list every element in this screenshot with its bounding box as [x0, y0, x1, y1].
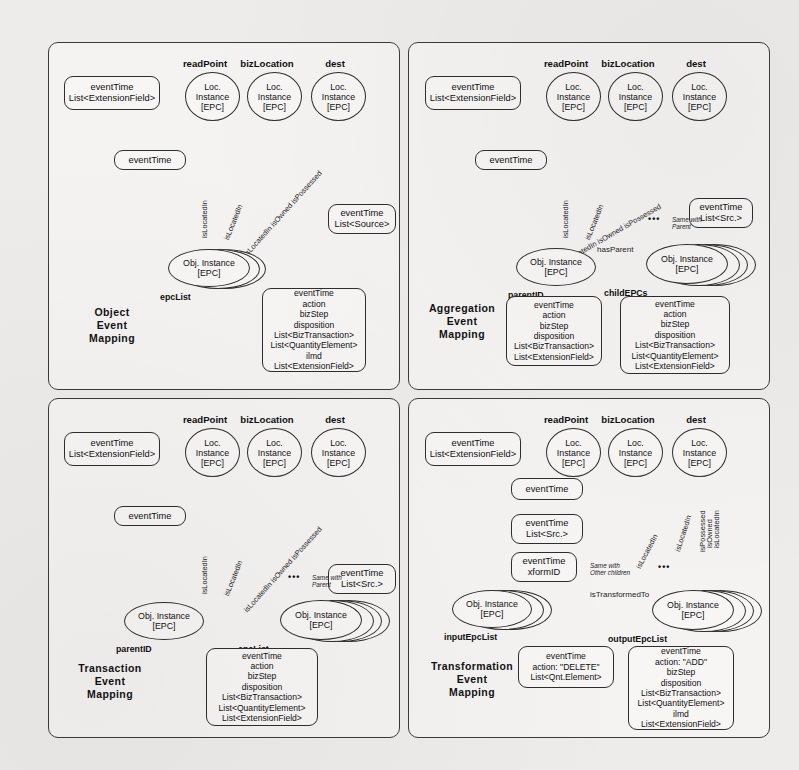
header-dest: dest: [305, 58, 365, 69]
obj-instance-epc-list: Obj. Instance [EPC]: [168, 249, 250, 287]
loc-instance-dest-xform: Loc. Instance [EPC]: [672, 428, 727, 477]
event-time-extension-box: eventTime List<ExtensionField>: [64, 76, 160, 110]
loc-instance-read-point-txn: Loc. Instance [EPC]: [185, 428, 240, 477]
event-time-extension-box-txn: eventTime List<ExtensionField>: [64, 432, 160, 466]
header-biz-location-txn: bizLocation: [231, 414, 303, 425]
obj-instance-input: Obj. Instance [EPC]: [452, 590, 532, 628]
panel-title-aggregation: Aggregation Event Mapping: [418, 302, 506, 341]
panel-title-object: Object Event Mapping: [62, 306, 162, 345]
loc-instance-read-point-agg: Loc. Instance [EPC]: [546, 72, 601, 121]
header-dest-agg: dest: [666, 58, 726, 69]
ellipsis-indicator-xform: •••: [658, 562, 670, 572]
loc-instance-read-point: Loc. Instance [EPC]: [185, 72, 240, 121]
event-time-source-box: eventTime List<Source>: [328, 204, 396, 234]
header-dest-xform: dest: [666, 414, 726, 425]
obj-instance-children: Obj. Instance [EPC]: [646, 244, 728, 284]
edge-label-is-possessed-xform: isPossessed: [698, 511, 707, 553]
edge-label-is-transformed-to: isTransformedTo: [590, 590, 649, 599]
loc-instance-biz-location-agg: Loc. Instance [EPC]: [608, 72, 663, 121]
transaction-event-attributes: eventTime action bizStep disposition Lis…: [206, 648, 318, 726]
edge-label-is-located-in-read-point-agg: isLocatedIn: [561, 200, 570, 238]
obj-instance-parent-txn: Obj. Instance [EPC]: [124, 602, 204, 640]
obj-instance-output: Obj. Instance [EPC]: [652, 590, 734, 630]
note-same-with-parent-agg: Same with Parent: [672, 216, 702, 231]
role-label-output-epc-list: outputEpcList: [608, 634, 667, 644]
event-time-box-agg: eventTime: [475, 150, 547, 170]
edge-label-has-parent: hasParent: [597, 245, 633, 254]
role-label-epc-list: epcList: [160, 292, 191, 302]
event-time-extension-box-xform: eventTime List<ExtensionField>: [425, 432, 521, 466]
header-dest-txn: dest: [305, 414, 365, 425]
event-time-xform-id-box: eventTime xformID: [511, 552, 577, 582]
header-biz-location-xform: bizLocation: [592, 414, 664, 425]
loc-instance-dest: Loc. Instance [EPC]: [311, 72, 366, 121]
transformation-output-attributes: eventTime action: "ADD" bizStep disposit…: [628, 646, 734, 730]
edge-label-is-located-in-read-point: isLocatedIn: [200, 200, 209, 238]
loc-instance-dest-agg: Loc. Instance [EPC]: [672, 72, 727, 121]
header-read-point-txn: readPoint: [170, 414, 240, 425]
loc-instance-dest-txn: Loc. Instance [EPC]: [311, 428, 366, 477]
obj-instance-epc-list-txn: Obj. Instance [EPC]: [280, 600, 362, 640]
role-label-input-epc-list: inputEpcList: [444, 632, 497, 642]
event-time-box-xform: eventTime: [511, 478, 583, 500]
aggregation-parent-attributes: eventTime action bizStep disposition Lis…: [506, 296, 602, 366]
loc-instance-biz-location-txn: Loc. Instance [EPC]: [247, 428, 302, 477]
panel-title-transaction: Transaction Event Mapping: [58, 662, 162, 701]
panel-title-transformation: Transformation Event Mapping: [416, 660, 528, 699]
ellipsis-indicator-txn: •••: [288, 572, 300, 582]
obj-instance-parent: Obj. Instance [EPC]: [516, 248, 596, 286]
event-time-extension-box-agg: eventTime List<ExtensionField>: [425, 76, 521, 110]
aggregation-child-attributes: eventTime action bizStep disposition Lis…: [620, 296, 730, 374]
header-biz-location-agg: bizLocation: [592, 58, 664, 69]
ellipsis-indicator-agg: •••: [648, 214, 660, 224]
loc-instance-biz-location-xform: Loc. Instance [EPC]: [608, 428, 663, 477]
header-read-point: readPoint: [170, 58, 240, 69]
event-time-box-txn: eventTime: [114, 506, 186, 526]
loc-instance-read-point-xform: Loc. Instance [EPC]: [546, 428, 601, 477]
object-event-attributes: eventTime action bizStep disposition Lis…: [262, 288, 366, 372]
note-same-with-other-children: Same with Other children: [590, 562, 630, 577]
header-read-point-agg: readPoint: [531, 58, 601, 69]
event-time-src-box-xform: eventTime List<Src.>: [511, 514, 583, 544]
edge-label-is-located-in-read-point-txn: isLocatedIn: [200, 556, 209, 594]
event-time-box: eventTime: [114, 150, 186, 170]
header-biz-location: bizLocation: [231, 58, 303, 69]
loc-instance-biz-location: Loc. Instance [EPC]: [247, 72, 302, 121]
header-read-point-xform: readPoint: [531, 414, 601, 425]
note-same-with-parent-txn: Same with Parent: [312, 574, 342, 589]
role-label-parent-id-txn: parentID: [116, 644, 152, 654]
transformation-input-attributes: eventTime action: "DELETE" List<Qnt.Elem…: [518, 646, 614, 688]
